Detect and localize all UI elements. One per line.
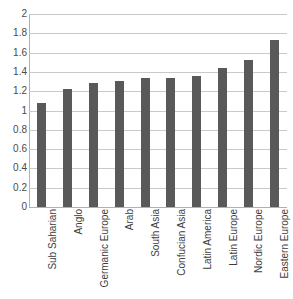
bar [141,78,150,207]
bar [244,60,253,207]
x-axis-tick-label: Confucian Asia [176,209,188,299]
x-axis-tick-label: Arab [124,209,136,299]
x-axis-tick-labels: Sub SaharianAngloGermanic EuropeArabSout… [29,209,287,299]
x-axis-tick-label: Latin America [202,209,214,299]
x-axis-tick-label: Anglo [73,209,85,299]
x-axis-tick-label: South Asia [150,209,162,299]
y-axis-tick-label: 1.8 [1,28,27,38]
x-axis-tick-label: Sub Saharian [47,209,59,299]
y-axis-tick-label: 1.2 [1,86,27,96]
x-axis-tick-label: Eastern Europe [279,209,291,299]
x-axis-tick-label: Germanic Europe [99,209,111,299]
y-axis-tick-labels: 21.81.61.41.210.80.60.40.20 [0,14,27,207]
x-axis-tick-label: Latin Europe [228,209,240,299]
bar [192,76,201,207]
bar-series [29,14,287,207]
y-axis-tick-label: 1.4 [1,67,27,77]
y-axis-tick-label: 0.8 [1,125,27,135]
y-axis-tick-label: 0 [1,202,27,212]
x-axis-tick-label: Nordic Europe [253,209,265,299]
bar [63,89,72,207]
clipped-title-artifact [0,0,293,4]
y-axis-tick-label: 1 [1,106,27,116]
bar [115,81,124,207]
bar [270,40,279,207]
y-axis-tick-label: 2 [1,9,27,19]
bar [89,83,98,207]
bar [218,68,227,207]
y-axis-tick-label: 0.6 [1,144,27,154]
y-axis-tick-label: 0.2 [1,183,27,193]
bar [37,103,46,207]
bar [166,78,175,207]
bar-chart: 21.81.61.41.210.80.60.40.20 Sub Saharian… [0,0,293,299]
y-axis-tick-label: 1.6 [1,48,27,58]
y-axis-tick-label: 0.4 [1,163,27,173]
x-axis-baseline [29,207,287,208]
